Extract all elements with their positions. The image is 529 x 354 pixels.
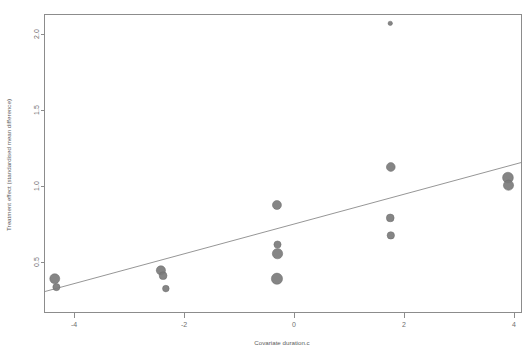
- data-point-bubble: [387, 232, 394, 239]
- data-point-bubble: [388, 21, 392, 25]
- data-point-bubble: [53, 283, 60, 290]
- x-tick-label: 4: [512, 321, 516, 328]
- data-point-bubble: [272, 248, 282, 258]
- x-tick-label: 0: [292, 321, 296, 328]
- x-tick-label: -2: [181, 321, 187, 328]
- regression-line: [45, 162, 522, 291]
- y-tick-label: 0.5: [33, 257, 40, 267]
- bubble-plot-svg: 0.51.01.52.0 -4-2024 Covariate duration.…: [0, 0, 529, 354]
- x-axis-title: Covariate duration.c: [254, 339, 309, 346]
- y-tick-label: 1.0: [33, 181, 40, 191]
- data-point-bubble: [50, 274, 60, 284]
- y-tick-label: 2.0: [33, 29, 40, 39]
- plot-frame: [45, 15, 522, 313]
- x-axis-ticks: -4-2024: [71, 313, 516, 328]
- data-point-bubble: [163, 285, 170, 292]
- data-point-bubble: [386, 163, 395, 172]
- scatter-plot-figure: 0.51.01.52.0 -4-2024 Covariate duration.…: [0, 0, 529, 354]
- y-axis-ticks: 0.51.01.52.0: [33, 29, 45, 267]
- data-point-bubble: [271, 273, 282, 284]
- y-axis-title: Treatment effect (standardised mean diff…: [5, 99, 12, 231]
- data-point-bubble: [386, 214, 394, 222]
- data-point-bubble: [503, 180, 513, 190]
- data-point-bubble: [272, 201, 281, 210]
- x-tick-label: 2: [402, 321, 406, 328]
- data-point-bubble: [159, 272, 167, 280]
- y-tick-label: 1.5: [33, 105, 40, 115]
- x-tick-label: -4: [71, 321, 77, 328]
- data-point-bubble: [274, 241, 281, 248]
- data-point-bubbles: [50, 21, 514, 292]
